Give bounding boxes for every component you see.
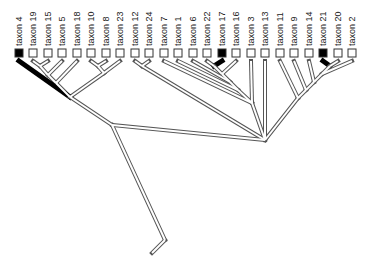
empty-square-icon [348,49,356,57]
taxon-label: taxon 11 [275,12,285,46]
taxon-label: taxon 16 [231,11,241,46]
taxon-leaf: taxon 12 [130,11,140,57]
taxon-label: taxon 8 [101,16,111,46]
taxon-leaf: taxon 23 [115,11,125,57]
tree-branches [19,61,352,253]
taxon-label: taxon 19 [28,11,38,46]
taxon-leaf: taxon 16 [231,11,241,57]
taxon-leaf: taxon 18 [72,11,82,57]
branch-inner [70,97,112,125]
taxon-leaf: taxon 6 [188,16,198,57]
taxon-label: taxon 7 [159,16,169,46]
taxon-leaf: taxon 10 [86,11,96,57]
branch-inner [294,61,306,90]
taxon-label: taxon 23 [115,11,125,46]
taxon-label: taxon 3 [246,16,256,46]
taxon-label: taxon 9 [289,16,299,46]
empty-square-icon [58,49,66,57]
taxon-leaves: taxon 4taxon 19taxon 15taxon 5taxon 18ta… [14,11,357,57]
taxon-label: taxon 10 [86,11,96,46]
taxon-label: taxon 22 [202,11,212,46]
taxon-label: taxon 15 [43,11,53,46]
taxon-label: taxon 6 [188,16,198,46]
taxon-leaf: taxon 17 [217,11,227,57]
empty-square-icon [305,49,313,57]
taxon-label: taxon 24 [144,11,154,46]
empty-square-icon [261,49,269,57]
taxon-leaf: taxon 14 [304,11,314,57]
taxon-leaf: taxon 1 [173,16,183,57]
branch-inner [70,73,104,97]
branch-inner [251,61,252,103]
empty-square-icon [160,49,168,57]
taxon-label: taxon 17 [217,11,227,46]
taxon-leaf: taxon 24 [144,11,154,57]
taxon-leaf: taxon 19 [28,11,38,57]
taxon-leaf: taxon 7 [159,16,169,57]
empty-square-icon [232,49,240,57]
taxon-leaf: taxon 21 [318,11,328,57]
empty-square-icon [44,49,52,57]
cladogram: taxon 4taxon 19taxon 15taxon 5taxon 18ta… [0,0,369,263]
empty-square-icon [102,49,110,57]
empty-square-icon [87,49,95,57]
taxon-leaf: taxon 2 [347,16,357,57]
taxon-leaf: taxon 15 [43,11,53,57]
empty-square-icon [189,49,197,57]
filled-square-icon [319,49,327,57]
taxon-leaf: taxon 4 [14,16,24,57]
taxon-label: taxon 14 [304,11,314,46]
taxon-leaf: taxon 11 [275,12,285,57]
empty-square-icon [73,49,81,57]
empty-square-icon [203,49,211,57]
taxon-label: taxon 2 [347,16,357,46]
taxon-label: taxon 5 [57,16,67,46]
taxon-leaf: taxon 3 [246,16,256,57]
taxon-label: taxon 12 [130,11,140,46]
taxon-label: taxon 4 [14,16,24,46]
taxon-leaf: taxon 9 [289,16,299,57]
taxon-label: taxon 13 [260,11,270,46]
branch-inner [152,240,165,253]
branch-inner [48,61,62,75]
empty-square-icon [334,49,342,57]
empty-square-icon [131,49,139,57]
empty-square-icon [276,49,284,57]
empty-square-icon [116,49,124,57]
empty-square-icon [29,49,37,57]
taxon-leaf: taxon 22 [202,11,212,57]
branch-inner [222,61,236,74]
taxon-label: taxon 20 [333,11,343,46]
taxon-leaf: taxon 13 [260,11,270,57]
taxon-label: taxon 1 [173,16,183,46]
taxon-leaf: taxon 8 [101,16,111,57]
filled-square-icon [15,49,23,57]
filled-square-icon [218,49,226,57]
branch-inner [112,125,165,240]
taxon-leaf: taxon 5 [57,16,67,57]
taxon-label: taxon 21 [318,11,328,46]
branch-inner [265,98,298,140]
empty-square-icon [174,49,182,57]
empty-square-icon [247,49,255,57]
taxon-label: taxon 18 [72,11,82,46]
taxon-leaf: taxon 20 [333,11,343,57]
empty-square-icon [145,49,153,57]
empty-square-icon [290,49,298,57]
